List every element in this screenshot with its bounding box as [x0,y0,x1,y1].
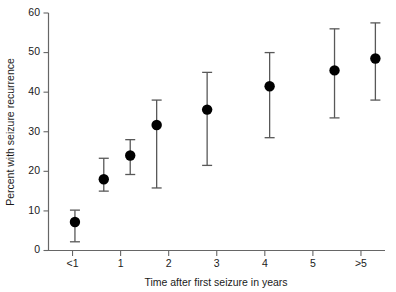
y-tick-label: 20 [28,164,40,176]
chart-background [0,0,396,292]
x-tick-label: 3 [214,257,220,269]
x-tick-label: 4 [262,257,268,269]
y-tick-label: 40 [28,85,40,97]
x-tick-label: 5 [310,257,316,269]
data-point-marker [151,120,161,130]
x-tick-label: >5 [355,257,367,269]
y-tick-label: 30 [28,125,40,137]
y-axis-title: Percent with seizure recurrence [4,58,16,206]
data-point-marker [202,104,212,114]
x-tick-label: <1 [67,257,79,269]
data-point-marker [264,81,274,91]
y-tick-label: 0 [34,243,40,255]
data-point-marker [370,53,380,63]
x-tick-label: 1 [118,257,124,269]
y-tick-label: 10 [28,204,40,216]
chart-canvas: 0102030405060 <112345>5 Time after first… [0,0,396,292]
x-axis-title: Time after first seizure in years [144,276,287,288]
data-point-marker [70,217,80,227]
x-tick-label: 2 [166,257,172,269]
data-point-marker [99,174,109,184]
y-tick-label: 60 [28,6,40,18]
data-point-marker [329,65,339,75]
data-point-marker [125,150,135,160]
seizure-recurrence-chart: 0102030405060 <112345>5 Time after first… [0,0,396,292]
y-tick-label: 50 [28,45,40,57]
